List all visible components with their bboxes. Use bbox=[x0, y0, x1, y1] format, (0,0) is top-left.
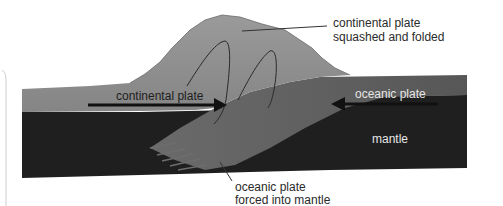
label-oceanic-forced-line2: forced into mantle bbox=[235, 193, 330, 206]
label-mantle: mantle bbox=[372, 132, 408, 146]
label-oceanic-forced-line1: oceanic plate bbox=[235, 180, 306, 194]
label-continental-folded-line1: continental plate bbox=[333, 16, 420, 30]
label-continental-plate: continental plate bbox=[116, 89, 203, 103]
label-continental-folded-line2: squashed and folded bbox=[333, 30, 444, 44]
diagram-stage: continental plate squashed and folded co… bbox=[0, 0, 503, 206]
label-oceanic-plate: oceanic plate bbox=[355, 87, 426, 101]
frame-bracket-line bbox=[2, 70, 6, 206]
